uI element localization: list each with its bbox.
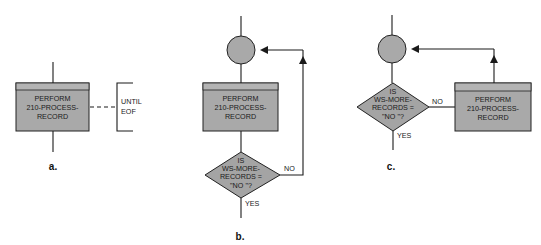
process-line-1: PERFORM	[475, 95, 511, 104]
decision-line-4: "NO "?	[230, 181, 252, 190]
decision-diamond-c: IS WS-MORE- RECORDS = "NO "?	[357, 83, 429, 131]
perform-until-flowcharts: PERFORM 210-PROCESS- RECORD UNTIL EOF a.…	[0, 0, 541, 245]
decision-line-3: RECORDS =	[372, 103, 414, 112]
diagram-c: IS WS-MORE- RECORDS = "NO "? NO PERFORM …	[357, 15, 531, 172]
decision-diamond-b: IS WS-MORE- RECORDS = "NO "?	[205, 152, 280, 198]
process-line-3: RECORD	[37, 112, 68, 121]
process-line-2: 210-PROCESS-	[467, 104, 520, 113]
connector-circle-c	[378, 35, 406, 63]
process-line-3: RECORD	[225, 112, 256, 121]
no-label: NO	[432, 97, 443, 106]
process-line-3: RECORD	[477, 113, 508, 122]
annotation-line-2: EOF	[121, 107, 136, 116]
yes-label: YES	[245, 199, 260, 208]
process-line-2: 210-PROCESS-	[215, 103, 268, 112]
process-line-2: 210-PROCESS-	[27, 103, 80, 112]
process-line-1: PERFORM	[223, 94, 259, 103]
diagram-b: PERFORM 210-PROCESS- RECORD IS WS-MORE- …	[203, 16, 303, 242]
annotation-line-1: UNTIL	[121, 97, 142, 106]
yes-label: YES	[397, 131, 412, 140]
loop-back-line-up	[280, 58, 303, 175]
decision-line-4: "NO "?	[382, 112, 404, 121]
process-box-b: PERFORM 210-PROCESS- RECORD	[203, 83, 278, 131]
decision-line-3: RECORDS =	[220, 172, 262, 181]
caption-a: a.	[49, 161, 58, 172]
process-box-c: PERFORM 210-PROCESS- RECORD	[455, 83, 531, 131]
caption-c: c.	[387, 161, 396, 172]
process-box-a: PERFORM 210-PROCESS- RECORD	[16, 83, 89, 131]
process-line-1: PERFORM	[35, 94, 71, 103]
caption-b: b.	[236, 231, 245, 242]
connector-circle-b	[227, 36, 255, 64]
no-label: NO	[284, 164, 295, 173]
diagram-a: PERFORM 210-PROCESS- RECORD UNTIL EOF a.	[16, 62, 142, 172]
